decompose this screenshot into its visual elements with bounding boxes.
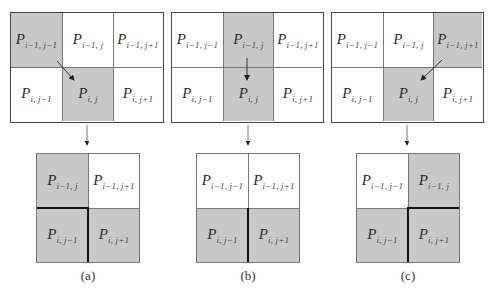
- cell-c-top-2: Pi−1, j+1: [433, 13, 482, 67]
- cell-b-top-4: Pi, j: [223, 67, 273, 121]
- cell-a-top-1: Pi−1, j: [62, 13, 113, 67]
- cell-a-top-3: Pi, j−1: [11, 67, 62, 121]
- cell-b-bottom-3: Pi, j+1: [248, 208, 299, 262]
- emphasis-line-c-v: [407, 207, 409, 262]
- caption-c: (c): [388, 268, 428, 284]
- cell-c-top-0: Pi−1, j−1: [332, 13, 383, 67]
- cell-c-top-5: Pi, j+1: [433, 67, 482, 121]
- cell-a-top-5: Pi, j+1: [113, 67, 162, 121]
- panel-c-top-grid: Pi−1, j−1 Pi−1, j Pi−1, j+1 Pi, j−1 Pi, …: [331, 12, 484, 123]
- caption-a: (a): [68, 268, 108, 284]
- cell-b-bottom-0: Pi−1, j−1: [197, 154, 248, 208]
- cell-b-top-1: Pi−1, j: [223, 13, 273, 67]
- cell-c-top-1: Pi−1, j: [383, 13, 433, 67]
- panel-c-bottom-grid: Pi−1, j−1 Pi−1, j Pi, j−1 Pi, j+1: [356, 153, 460, 263]
- cell-b-top-2: Pi−1, j+1: [273, 13, 322, 67]
- cell-c-bottom-0: Pi−1, j−1: [357, 154, 408, 208]
- panel-a-top-grid: Pi−1, j−1 Pi−1, j Pi−1, j+1 Pi, j−1 Pi, …: [10, 12, 164, 123]
- emphasis-line-b-v: [247, 208, 249, 262]
- cell-c-bottom-1: Pi−1, j: [408, 154, 459, 208]
- caption-b: (b): [228, 268, 268, 284]
- panel-a-bottom-grid: Pi−1, j Pi−1, j+1 Pi, j−1 Pi, j+1: [36, 153, 140, 263]
- cell-a-top-4: Pi, j: [62, 67, 113, 121]
- cell-c-top-4: Pi, j: [383, 67, 433, 121]
- emphasis-line-a-v: [87, 207, 89, 262]
- cell-a-top-2: Pi−1, j+1: [113, 13, 162, 67]
- cell-c-bottom-2: Pi, j−1: [357, 208, 408, 262]
- cell-c-bottom-3: Pi, j+1: [408, 208, 459, 262]
- cell-a-bottom-0: Pi−1, j: [37, 154, 88, 208]
- cell-a-bottom-2: Pi, j−1: [37, 208, 88, 262]
- panel-b-bottom-grid: Pi−1, j−1 Pi−1, j+1 Pi, j−1 Pi, j+1: [196, 153, 300, 263]
- cell-b-bottom-1: Pi−1, j+1: [248, 154, 299, 208]
- emphasis-line-a-h: [37, 207, 89, 209]
- cell-a-top-0: Pi−1, j−1: [11, 13, 62, 67]
- cell-a-bottom-3: Pi, j+1: [88, 208, 139, 262]
- cell-c-top-3: Pi, j−1: [332, 67, 383, 121]
- cell-a-bottom-1: Pi−1, j+1: [88, 154, 139, 208]
- emphasis-line-c-h: [407, 207, 459, 209]
- cell-b-bottom-2: Pi, j−1: [197, 208, 248, 262]
- cell-b-top-0: Pi−1, j−1: [172, 13, 223, 67]
- cell-b-top-5: Pi, j+1: [273, 67, 322, 121]
- cell-b-top-3: Pi, j−1: [172, 67, 223, 121]
- panel-b-top-grid: Pi−1, j−1 Pi−1, j Pi−1, j+1 Pi, j−1 Pi, …: [171, 12, 324, 123]
